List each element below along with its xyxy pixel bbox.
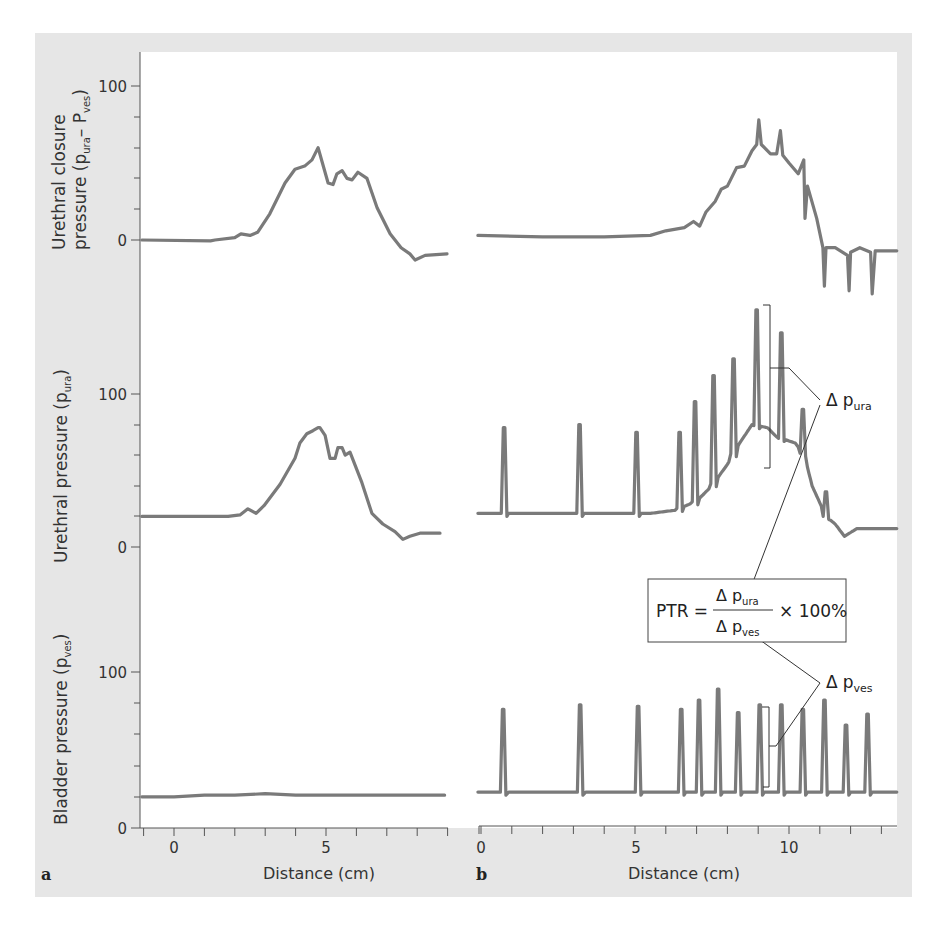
y-axis-label-bladder: Bladder pressure (pves): [51, 634, 73, 825]
x-tick-label-b-10: 10: [779, 839, 798, 857]
ptr-multiplier: × 100%: [779, 601, 847, 621]
panel-label-b: b: [476, 865, 487, 884]
y-tick-label-closure-0: 0: [117, 232, 127, 250]
x-axis-label-a: Distance (cm): [263, 864, 375, 883]
panel-label-a: a: [41, 865, 51, 884]
x-tick-label-b-5: 5: [631, 839, 641, 857]
ptr-lhs: PTR =: [656, 601, 708, 621]
x-axis-panel-a: 0 5 Distance (cm) a: [41, 828, 448, 884]
y-axis-label-closure-line1: Urethral closure: [49, 114, 69, 250]
y-ticks-urethral: 100 0: [98, 386, 140, 557]
ptr-formula-box: PTR = Δpura Δpves × 100%: [648, 579, 847, 642]
y-tick-label-bladder-0: 0: [117, 820, 127, 838]
y-tick-label-urethral-0: 0: [117, 539, 127, 557]
y-tick-label-bladder-100: 100: [98, 664, 127, 682]
y-axis-label-urethral: Urethral pressure (pura): [51, 369, 73, 563]
y-axis-label-closure-line2: pressure (pura– Pves): [70, 89, 92, 250]
x-tick-label-b-0: 0: [476, 839, 486, 857]
x-tick-label-a-0: 0: [169, 839, 179, 857]
pressure-profile-chart: 100 0 100 0 100 0 Urethral closure press…: [0, 0, 937, 930]
y-tick-label-closure-100: 100: [98, 78, 127, 96]
y-ticks-bladder: 100 0: [98, 664, 140, 838]
y-ticks-closure: 100 0: [98, 78, 140, 250]
x-axis-label-b: Distance (cm): [628, 864, 740, 883]
y-tick-label-urethral-100: 100: [98, 386, 127, 404]
x-tick-label-a-5: 5: [321, 839, 331, 857]
x-axis-panel-b: 0 5 10 Distance (cm) b: [476, 826, 897, 884]
